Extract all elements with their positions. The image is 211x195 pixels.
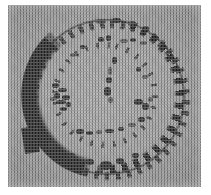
micrograph-figure bbox=[0, 0, 211, 195]
micrograph-plate bbox=[8, 5, 201, 187]
halftone-screen-highlight bbox=[8, 5, 201, 187]
